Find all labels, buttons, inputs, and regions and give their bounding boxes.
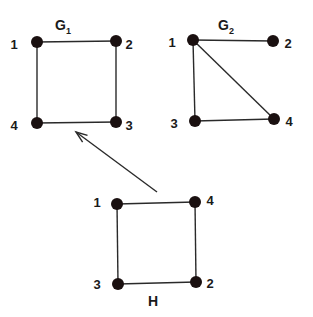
arrow-shaft xyxy=(76,132,157,192)
graph-title-text: G xyxy=(55,17,66,33)
edge-g2-1-2 xyxy=(193,40,273,41)
node-h-2 xyxy=(190,276,202,288)
titles-layer: G1G2H xyxy=(55,17,234,309)
edge-h-3-1 xyxy=(117,204,118,284)
edge-g2-1-4 xyxy=(193,40,274,119)
graph-title-g2: G2 xyxy=(218,17,234,36)
node-g1-2 xyxy=(110,35,122,47)
node-label-h-1: 1 xyxy=(93,195,100,210)
node-label-h-2: 2 xyxy=(206,276,213,291)
node-label-g2-1: 1 xyxy=(168,35,175,50)
node-label-g2-3: 3 xyxy=(170,116,177,131)
node-g2-3 xyxy=(189,115,201,127)
node-g2-1 xyxy=(187,34,199,46)
edge-h-2-3 xyxy=(118,282,196,284)
mapping-arrow xyxy=(76,132,157,192)
labels-layer: 123412341432 xyxy=(10,35,293,292)
edge-h-1-4 xyxy=(117,202,195,204)
graph-title-text: G xyxy=(218,17,229,33)
graph-title-subscript: 2 xyxy=(229,26,234,36)
node-label-g1-1: 1 xyxy=(10,37,17,52)
node-label-g1-4: 4 xyxy=(10,118,18,133)
node-label-g2-4: 4 xyxy=(285,114,293,129)
edge-g2-1-3 xyxy=(193,40,195,121)
nodes-layer xyxy=(31,34,280,290)
node-label-g1-2: 2 xyxy=(125,37,132,52)
edge-g2-3-4 xyxy=(195,119,274,121)
node-label-h-3: 3 xyxy=(93,277,100,292)
node-g2-4 xyxy=(268,113,280,125)
node-g2-2 xyxy=(267,35,279,47)
node-g1-4 xyxy=(31,117,43,129)
node-g1-1 xyxy=(31,36,43,48)
graph-title-text: H xyxy=(148,293,158,309)
edge-g1-3-4 xyxy=(37,122,116,123)
graph-title-subscript: 1 xyxy=(66,26,71,36)
graph-title-h: H xyxy=(148,293,158,309)
node-h-1 xyxy=(111,198,123,210)
node-label-g2-2: 2 xyxy=(284,36,291,51)
edge-h-4-2 xyxy=(195,202,196,282)
node-label-h-4: 4 xyxy=(206,193,214,208)
graph-diagram: 123412341432 G1G2H xyxy=(0,0,313,317)
node-h-3 xyxy=(112,278,124,290)
node-h-4 xyxy=(189,196,201,208)
edge-g1-1-2 xyxy=(37,41,116,42)
node-g1-3 xyxy=(110,116,122,128)
edges-layer xyxy=(37,40,274,284)
graph-title-g1: G1 xyxy=(55,17,71,36)
node-label-g1-3: 3 xyxy=(125,118,132,133)
